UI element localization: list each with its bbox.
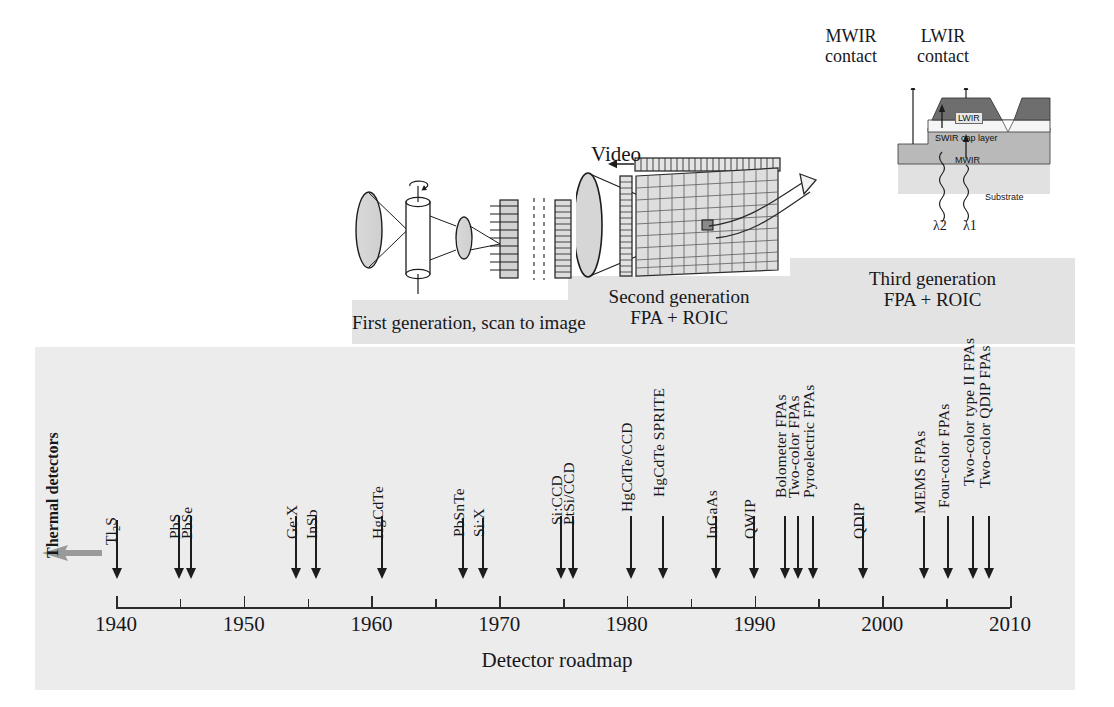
lwir-contact-label: LWIR contact — [898, 26, 988, 67]
detector-arrow-shaft — [988, 516, 990, 569]
axis-tick-minor — [818, 599, 820, 608]
axis-tick-major — [755, 596, 757, 608]
detector-event-label: InSb — [303, 509, 321, 539]
wavelength-lambda1-label: λ1 — [963, 218, 977, 234]
detector-arrow-head-icon — [478, 568, 488, 579]
axis-tick-major — [371, 596, 373, 608]
detector-arrow-head-icon — [458, 568, 468, 579]
detector-event-label: Si:X — [470, 508, 488, 537]
layer-label-mwir: MWIR — [955, 155, 980, 165]
axis-tick-label: 2010 — [989, 612, 1031, 637]
mwir-contact-label: MWIR contact — [806, 26, 896, 67]
detector-arrow-head-icon — [808, 568, 818, 579]
detector-arrow-head-icon — [568, 568, 578, 579]
detector-event-label: QWIP — [741, 499, 759, 539]
axis-tick-major — [499, 596, 501, 608]
detector-event-label: Four-color FPAs — [935, 404, 953, 508]
detector-arrow-shaft — [797, 516, 799, 569]
detector-arrow-shaft — [812, 516, 814, 569]
detector-event-label: HgCdTe/CCD — [618, 423, 636, 512]
axis-tick-minor — [308, 599, 310, 608]
detector-event-label: HgCdTe SPRITE — [650, 388, 668, 497]
detector-arrow-head-icon — [749, 568, 759, 579]
detector-event-label: PtSi/CCD — [560, 462, 578, 525]
detector-arrow-head-icon — [556, 568, 566, 579]
detector-arrow-head-icon — [291, 568, 301, 579]
lwir-contact-line2: contact — [898, 46, 988, 66]
wavelength-lambda2-label: λ2 — [933, 218, 947, 234]
detector-arrow-head-icon — [377, 568, 387, 579]
detector-event-label: Two-color QDIP FPAs — [976, 345, 994, 488]
axis-tick-major — [244, 596, 246, 608]
detector-event-label: PbSnTe — [450, 488, 468, 537]
detector-arrow-shaft — [662, 516, 664, 569]
axis-tick-major — [627, 596, 629, 608]
detector-arrow-head-icon — [984, 568, 994, 579]
mwir-contact-line1: MWIR — [806, 26, 896, 46]
detector-event-label: InGaAs — [703, 490, 721, 539]
axis-tick-minor — [691, 599, 693, 608]
detector-arrow-shaft — [972, 516, 974, 569]
detector-arrow-shaft — [947, 516, 949, 569]
detector-event-label: QDIP — [850, 502, 868, 539]
detector-arrow-shaft — [784, 516, 786, 569]
label-first-generation: First generation, scan to image — [352, 312, 578, 333]
detector-event-label: PbSe — [178, 507, 196, 539]
detector-event-label: Pyroelectric FPAs — [800, 385, 818, 499]
detector-arrow-head-icon — [311, 568, 321, 579]
detector-arrow-head-icon — [626, 568, 636, 579]
lambda1-text: λ1 — [963, 218, 977, 233]
mwir-contact-line2: contact — [806, 46, 896, 66]
second-generation-line2: FPA + ROIC — [568, 307, 790, 328]
detector-arrow-head-icon — [968, 568, 978, 579]
detector-arrow-head-icon — [919, 568, 929, 579]
layer-label-lwir: LWIR — [955, 112, 983, 124]
axis-tick-major — [882, 596, 884, 608]
detector-event-label: Ge:X — [283, 505, 301, 539]
axis-tick-label: 1970 — [478, 612, 520, 637]
detector-arrow-shaft — [630, 516, 632, 569]
axis-title: Detector roadmap — [0, 648, 1114, 673]
axis-tick-label: 1950 — [223, 612, 265, 637]
axis-tick-label: 1980 — [606, 612, 648, 637]
detector-event-label: HgCdTe — [369, 486, 387, 539]
detector-arrow-head-icon — [112, 568, 122, 579]
lwir-contact-line1: LWIR — [898, 26, 988, 46]
axis-tick-label: 1990 — [734, 612, 776, 637]
video-label: Video — [591, 142, 641, 167]
axis-tick-minor — [563, 599, 565, 608]
detector-arrow-head-icon — [780, 568, 790, 579]
figure-canvas: First generation, scan to image Second g… — [0, 0, 1114, 707]
axis-tick-label: 1960 — [350, 612, 392, 637]
axis-tick-label: 2000 — [861, 612, 903, 637]
detector-arrow-head-icon — [943, 568, 953, 579]
layer-label-substrate: Substrate — [985, 192, 1024, 202]
detector-event-label: MEMS FPAs — [911, 431, 929, 514]
detector-arrow-head-icon — [711, 568, 721, 579]
first-generation-line1: First generation, scan to image — [352, 312, 586, 333]
thermal-detectors-label: Thermal detectors — [44, 432, 62, 558]
detector-event-label: Tl2S — [102, 517, 122, 545]
lambda2-text: λ2 — [933, 218, 947, 233]
axis-tick-major — [116, 596, 118, 608]
layer-label-swir-cap: SWIR cap layer — [935, 133, 998, 143]
detector-arrow-shaft — [923, 516, 925, 569]
detector-arrow-head-icon — [793, 568, 803, 579]
detector-arrow-head-icon — [658, 568, 668, 579]
detector-arrow-head-icon — [174, 568, 184, 579]
axis-tick-minor — [435, 599, 437, 608]
detector-arrow-head-icon — [858, 568, 868, 579]
axis-tick-minor — [946, 599, 948, 608]
axis-tick-label: 1940 — [95, 612, 137, 637]
axis-tick-major — [1010, 596, 1012, 608]
axis-tick-minor — [180, 599, 182, 608]
second-generation-fpa-diagram — [576, 150, 846, 300]
detector-arrow-head-icon — [186, 568, 196, 579]
